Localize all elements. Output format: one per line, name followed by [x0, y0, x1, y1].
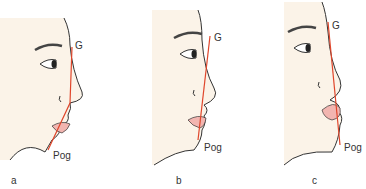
panel-c: G Pog c	[244, 0, 366, 189]
glabella-label-b: G	[214, 32, 222, 43]
pogonion-label-b: Pog	[204, 142, 222, 153]
glabella-label-c: G	[332, 20, 340, 31]
pogonion-label-a: Pog	[53, 150, 71, 161]
panel-b: G Pog b	[122, 0, 244, 189]
caption-b: b	[176, 175, 182, 186]
face-profile-b	[122, 0, 244, 189]
face-profile-c	[244, 0, 366, 189]
caption-c: c	[312, 175, 317, 186]
caption-a: a	[11, 175, 17, 186]
glabella-label-a: G	[75, 40, 83, 51]
panel-a: G Pog a	[0, 0, 122, 189]
pogonion-label-c: Pog	[344, 142, 362, 153]
